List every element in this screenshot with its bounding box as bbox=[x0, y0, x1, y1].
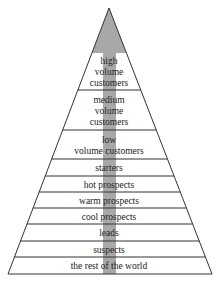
tier-label-starters: starters bbox=[95, 163, 123, 173]
tier-label-the-rest-of-the-world: the rest of the world bbox=[71, 261, 148, 271]
tier-label-cool-prospects: cool prospects bbox=[82, 212, 137, 222]
tier-label-medium-volume-customers: medium bbox=[93, 95, 125, 105]
tier-label-medium-volume-customers: customers bbox=[90, 117, 129, 127]
tier-label-leads: leads bbox=[99, 228, 119, 238]
tier-label-medium-volume-customers: volume bbox=[95, 106, 124, 116]
tier-label-warm-prospects: warm prospects bbox=[79, 196, 139, 206]
shaded-apex bbox=[92, 8, 127, 53]
customer-pyramid-diagram: highvolumecustomersmediumvolumecustomers… bbox=[0, 0, 219, 283]
tier-label-high-volume-customers: customers bbox=[90, 78, 129, 88]
tier-label-hot-prospects: hot prospects bbox=[84, 180, 135, 190]
tier-label-high-volume-customers: volume bbox=[95, 67, 124, 77]
tier-label-low-volume-customers: low bbox=[102, 135, 116, 145]
tier-label-suspects: suspects bbox=[93, 245, 125, 255]
tier-label-high-volume-customers: high bbox=[101, 56, 118, 66]
tier-label-low-volume-customers: volume customers bbox=[74, 146, 144, 156]
